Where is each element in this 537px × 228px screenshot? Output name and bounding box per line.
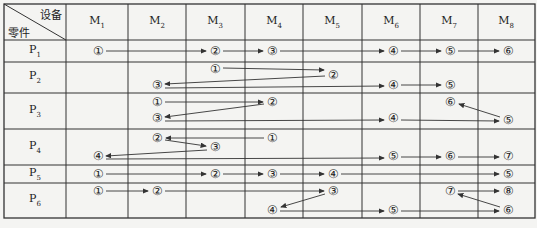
corner-label-equipment: 设备 — [40, 6, 62, 22]
route-node-p2: ① — [209, 63, 222, 75]
route-node-p4: ⑤ — [387, 150, 400, 162]
route-node-p2: ⑤ — [444, 79, 457, 91]
route-node-p5: ⑤ — [502, 168, 515, 180]
route-node-p4: ① — [266, 132, 279, 144]
route-node-p2: ③ — [151, 79, 164, 91]
route-node-p4: ③ — [209, 141, 222, 153]
row-label-p2: P2 — [29, 69, 41, 84]
row-label-p4: P4 — [29, 139, 41, 154]
route-node-p6: ⑤ — [387, 204, 400, 216]
route-node-p3: ⑥ — [444, 96, 457, 108]
route-node-p5: ③ — [266, 168, 279, 180]
route-node-p2: ④ — [387, 79, 400, 91]
route-node-p6: ③ — [327, 185, 340, 197]
route-node-p5: ④ — [327, 168, 340, 180]
route-node-p4: ⑦ — [502, 150, 515, 162]
header-m5: M5 — [324, 14, 340, 29]
row-label-p3: P3 — [29, 103, 41, 118]
route-node-p4: ④ — [92, 150, 105, 162]
route-node-p1: ③ — [266, 45, 279, 57]
route-node-p4: ⑥ — [444, 150, 457, 162]
route-node-p6: ④ — [266, 204, 279, 216]
header-m6: M6 — [383, 14, 399, 29]
header-m7: M7 — [441, 14, 457, 29]
row-label-p1: P1 — [29, 43, 41, 58]
route-node-p3: ③ — [151, 112, 164, 124]
route-node-p1: ⑥ — [502, 45, 515, 57]
route-node-p3: ⑤ — [502, 114, 515, 126]
route-node-p1: ② — [209, 45, 222, 57]
header-m8: M8 — [498, 14, 514, 29]
corner-label-part: 零件 — [8, 24, 30, 40]
route-node-p3: ① — [151, 96, 164, 108]
route-node-p4: ② — [151, 132, 164, 144]
route-node-p1: ① — [92, 45, 105, 57]
route-node-p6: ① — [92, 185, 105, 197]
route-node-p6: ② — [151, 185, 164, 197]
route-node-p6: ⑥ — [502, 204, 515, 216]
route-node-p3: ④ — [387, 112, 400, 124]
route-node-p6: ⑦ — [444, 185, 457, 197]
header-m3: M3 — [207, 14, 223, 29]
row-label-p6: P6 — [29, 192, 41, 207]
route-node-p1: ⑤ — [444, 45, 457, 57]
header-m4: M4 — [266, 14, 282, 29]
route-node-p2: ② — [327, 69, 340, 81]
header-m2: M2 — [149, 14, 165, 29]
route-node-p5: ② — [209, 168, 222, 180]
header-m1: M1 — [89, 14, 105, 29]
route-node-p1: ④ — [387, 45, 400, 57]
route-node-p3: ② — [266, 96, 279, 108]
row-label-p5: P5 — [29, 166, 41, 181]
route-node-p5: ① — [92, 168, 105, 180]
route-node-p6: ⑧ — [502, 185, 515, 197]
